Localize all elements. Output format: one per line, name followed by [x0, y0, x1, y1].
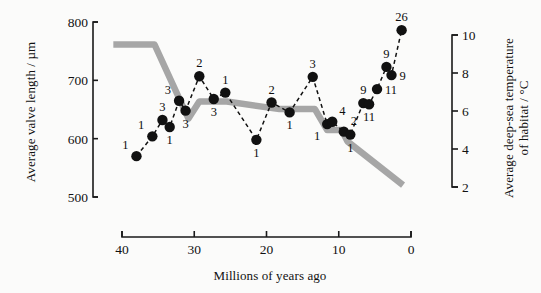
data-point-label: 1 — [222, 73, 228, 87]
y-axis-label-left: Average valve length / µm — [23, 17, 39, 207]
temperature-line — [113, 45, 403, 186]
y-tick-label-right: 8 — [462, 66, 469, 81]
data-point-label: 1 — [347, 141, 353, 155]
data-point-label: 2 — [268, 83, 274, 97]
data-point-label: 1 — [167, 133, 173, 147]
data-point-label: 3 — [211, 105, 217, 119]
valve-length-points: 11313323112131421911119926 — [122, 10, 408, 161]
data-point-label: 3 — [159, 100, 165, 114]
y-tick-label-left: 600 — [68, 132, 89, 147]
data-point-label: 4 — [339, 104, 346, 118]
data-point-label: 3 — [165, 83, 171, 97]
y-tick-label-left: 800 — [68, 15, 89, 30]
data-point — [220, 87, 230, 97]
data-point — [174, 96, 184, 106]
y-axis-right: 246810 — [452, 28, 476, 195]
data-point — [345, 129, 355, 139]
x-axis: 403020100 — [115, 231, 414, 257]
data-point — [194, 71, 204, 81]
data-point-label: 1 — [314, 129, 320, 143]
data-point — [386, 70, 396, 80]
data-point — [164, 122, 174, 132]
data-point — [209, 94, 219, 104]
data-point-label: 1 — [138, 118, 144, 132]
data-point — [396, 25, 406, 35]
data-point — [364, 99, 374, 109]
data-point — [266, 97, 276, 107]
data-point — [284, 107, 294, 117]
data-point — [308, 72, 318, 82]
y-tick-label-right: 4 — [462, 142, 469, 157]
data-point-label: 3 — [310, 57, 316, 71]
data-point-label: 9 — [383, 47, 389, 61]
y-axis-label-right-line1: Average deep-sea temperature — [501, 23, 517, 213]
data-point-label: 1 — [286, 118, 292, 132]
y-tick-label-left: 700 — [68, 73, 89, 88]
y-tick-label-left: 500 — [68, 190, 89, 205]
data-point-label: 1 — [253, 146, 259, 160]
x-tick-label: 40 — [115, 242, 129, 257]
y-tick-label-right: 2 — [462, 180, 469, 195]
x-tick-label: 0 — [408, 242, 415, 257]
y-tick-label-right: 10 — [462, 28, 476, 43]
data-point — [131, 151, 141, 161]
data-point-label: 1 — [122, 138, 128, 152]
data-point-label: 9 — [360, 83, 366, 97]
data-point-label: 11 — [363, 110, 375, 124]
data-point — [180, 105, 190, 115]
x-tick-label: 10 — [332, 242, 346, 257]
data-point — [147, 131, 157, 141]
x-tick-label: 20 — [260, 242, 274, 257]
data-point-label: 11 — [385, 83, 397, 97]
data-point-label: 3 — [182, 117, 188, 131]
data-point — [372, 84, 382, 94]
data-point-label: 2 — [196, 56, 202, 70]
figure-container: 5006007008002468104030201001131332311213… — [0, 0, 541, 293]
y-axis-left: 500600700800 — [68, 15, 98, 205]
y-tick-label-right: 6 — [462, 104, 469, 119]
data-point — [251, 135, 261, 145]
data-point-label: 9 — [399, 69, 405, 83]
data-point-label: 2 — [351, 114, 357, 128]
y-axis-label-right-line2: of habitat / °C — [516, 23, 532, 213]
data-point — [327, 117, 337, 127]
data-point-label: 26 — [395, 10, 408, 24]
x-axis-label: Millions of years ago — [180, 268, 360, 284]
x-tick-label: 30 — [188, 242, 202, 257]
chart-plot-area: 5006007008002468104030201001131332311213… — [0, 0, 541, 293]
